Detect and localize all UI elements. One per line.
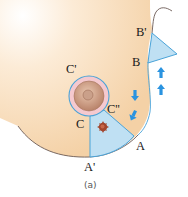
breast-flap-diagram: B' B C' C C'' A A' (a) (0, 0, 188, 197)
label-a: A (136, 139, 145, 153)
label-c-double-prime: C'' (107, 102, 120, 116)
up-arrow-icon (157, 84, 165, 95)
label-b-prime: B' (136, 25, 147, 39)
figure-caption: (a) (84, 180, 97, 190)
label-b: B (132, 55, 140, 69)
label-c-prime: C' (66, 62, 77, 76)
nipple (83, 90, 93, 100)
label-c: C (76, 117, 84, 131)
breast-outline-top (152, 8, 172, 33)
label-a-prime: A' (84, 160, 95, 174)
up-arrow-icon (157, 67, 165, 78)
upper-flap (148, 33, 177, 63)
